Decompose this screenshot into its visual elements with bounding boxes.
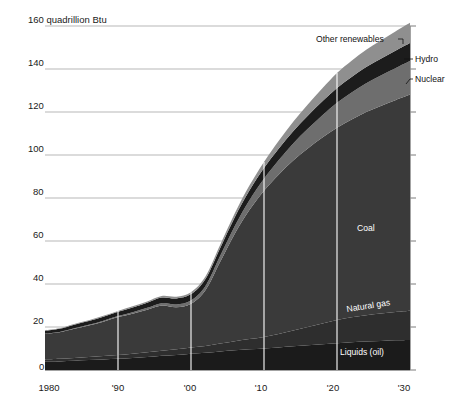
x-tick-label-2030: '30 <box>398 382 410 393</box>
y-tick-label-160: 160 quadrillion Btu <box>28 14 107 25</box>
y-tick-label-140: 140 <box>28 57 44 68</box>
x-tick-label-2010: '10 <box>255 382 267 393</box>
nuclear-label: Nuclear <box>415 74 445 84</box>
y-tick-label-100: 100 <box>28 143 44 154</box>
x-tick-label-2020: '20 <box>327 382 339 393</box>
hydro-label: Hydro <box>415 54 438 64</box>
other-renewables-label: Other renewables <box>316 34 384 44</box>
energy-consumption-area-chart: 160 quadrillion Btu 140 120 100 80 60 40… <box>0 0 468 414</box>
y-tick-label-120: 120 <box>28 100 44 111</box>
chart-canvas: 160 quadrillion Btu 140 120 100 80 60 40… <box>0 0 468 414</box>
y-tick-label-0: 0 <box>39 361 44 372</box>
x-tick-label-1990: '90 <box>112 382 124 393</box>
y-tick-label-40: 40 <box>33 272 44 283</box>
liquids-label: Liquids (oil) <box>340 347 384 357</box>
y-tick-label-80: 80 <box>33 186 44 197</box>
x-tick-label-2000: '00 <box>184 382 196 393</box>
coal-label: Coal <box>357 223 375 233</box>
y-tick-label-60: 60 <box>33 229 44 240</box>
y-tick-label-20: 20 <box>33 315 44 326</box>
x-tick-label-1980: 1980 <box>38 382 59 393</box>
